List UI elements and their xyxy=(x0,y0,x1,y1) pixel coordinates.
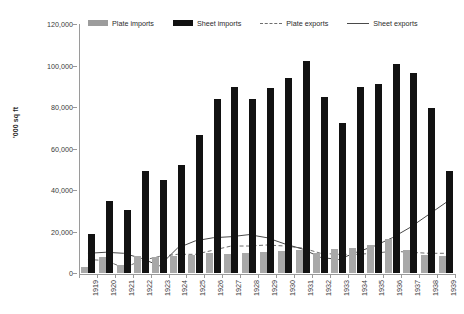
x-tick-label: 1934 xyxy=(360,280,369,296)
x-tick-label: 1932 xyxy=(324,280,333,296)
x-tick-label: 1933 xyxy=(342,280,351,296)
x-tick-mark xyxy=(348,274,349,278)
bar-sheet-imports xyxy=(249,99,256,273)
bar-plate-imports xyxy=(152,257,159,273)
x-tick-mark xyxy=(330,274,331,278)
x-tick-label: 1920 xyxy=(109,280,118,296)
y-tick-mark xyxy=(73,149,77,150)
x-tick-label: 1919 xyxy=(91,280,100,296)
x-tick-label: 1922 xyxy=(145,280,154,296)
bar-plate-imports xyxy=(278,251,285,273)
y-tick-mark xyxy=(73,107,77,108)
x-tick-label: 1930 xyxy=(288,280,297,296)
x-tick-mark xyxy=(204,274,205,278)
x-axis-line xyxy=(79,274,456,275)
y-tick-mark xyxy=(73,190,77,191)
bar-sheet-imports xyxy=(267,88,274,273)
bar-plate-imports xyxy=(81,267,88,273)
x-tick-mark xyxy=(365,274,366,278)
x-tick-label: 1929 xyxy=(270,280,279,296)
y-tick-mark xyxy=(73,66,77,67)
y-tick-label: 100,000 xyxy=(47,61,73,70)
x-tick-label: 1921 xyxy=(127,280,136,296)
y-tick-mark xyxy=(73,273,77,274)
x-tick-mark xyxy=(437,274,438,278)
bar-plate-imports xyxy=(170,256,177,273)
bar-plate-imports xyxy=(134,256,141,273)
bar-plate-imports xyxy=(349,248,356,273)
x-tick-label: 1924 xyxy=(180,280,189,296)
x-tick-mark xyxy=(97,274,98,278)
bar-sheet-imports xyxy=(160,180,167,273)
x-tick-label: 1927 xyxy=(234,280,243,296)
y-tick-label: 40,000 xyxy=(51,186,73,195)
bar-plate-imports xyxy=(331,249,338,273)
x-tick-mark xyxy=(240,274,241,278)
plot-area xyxy=(79,24,455,273)
bar-plate-imports xyxy=(385,239,392,273)
x-tick-mark xyxy=(401,274,402,278)
x-tick-mark xyxy=(115,274,116,278)
bar-sheet-imports xyxy=(339,123,346,273)
bar-sheet-imports xyxy=(124,210,131,273)
bar-sheet-imports xyxy=(106,201,113,273)
x-tick-mark xyxy=(419,274,420,278)
bar-sheet-imports xyxy=(375,84,382,273)
bar-plate-imports xyxy=(242,253,249,273)
bar-sheet-imports xyxy=(231,87,238,273)
bar-sheet-imports xyxy=(88,234,95,273)
y-tick-mark xyxy=(73,232,77,233)
x-tick-label: 1936 xyxy=(395,280,404,296)
bar-plate-imports xyxy=(421,255,428,273)
x-tick-label: 1937 xyxy=(413,280,422,296)
bar-plate-imports xyxy=(117,265,124,273)
x-tick-label: 1928 xyxy=(252,280,261,296)
x-tick-mark xyxy=(133,274,134,278)
bar-sheet-imports xyxy=(142,171,149,273)
x-tick-mark xyxy=(455,274,456,278)
x-tick-label: 1925 xyxy=(198,280,207,296)
x-tick-mark xyxy=(383,274,384,278)
x-tick-mark xyxy=(222,274,223,278)
bar-plate-imports xyxy=(439,256,446,273)
x-tick-label: 1935 xyxy=(377,280,386,296)
bar-sheet-imports xyxy=(285,78,292,273)
bar-sheet-imports xyxy=(321,97,328,273)
x-tick-mark xyxy=(294,274,295,278)
bar-sheet-imports xyxy=(178,165,185,273)
bar-plate-imports xyxy=(367,245,374,273)
bar-sheet-imports xyxy=(357,87,364,273)
bar-plate-imports xyxy=(260,252,267,273)
bar-plate-imports xyxy=(99,257,106,273)
bar-plate-imports xyxy=(403,250,410,273)
x-tick-mark xyxy=(258,274,259,278)
x-tick-mark xyxy=(79,274,80,278)
y-tick-label: 20,000 xyxy=(51,227,73,236)
y-tick-mark xyxy=(73,24,77,25)
y-tick-label: 120,000 xyxy=(47,20,73,29)
y-tick-label: 60,000 xyxy=(51,144,73,153)
x-tick-mark xyxy=(312,274,313,278)
bar-sheet-imports xyxy=(410,73,417,273)
x-tick-label: 1931 xyxy=(306,280,315,296)
y-tick-label: 80,000 xyxy=(51,103,73,112)
x-tick-label: 1938 xyxy=(431,280,440,296)
chart-container: Plate importsSheet importsPlate exportsS… xyxy=(0,0,464,314)
x-tick-label: 1926 xyxy=(216,280,225,296)
x-tick-label: 1923 xyxy=(163,280,172,296)
x-tick-mark xyxy=(151,274,152,278)
bar-sheet-imports xyxy=(446,171,453,273)
x-tick-mark xyxy=(186,274,187,278)
y-axis-tick-labels: 020,00040,00060,00080,000100,000120,000 xyxy=(0,24,79,274)
bar-plate-imports xyxy=(313,253,320,273)
bar-sheet-imports xyxy=(196,135,203,273)
bar-plate-imports xyxy=(206,253,213,273)
bar-plate-imports xyxy=(188,255,195,273)
bar-plate-imports xyxy=(296,250,303,273)
bar-sheet-imports xyxy=(214,99,221,273)
x-tick-mark xyxy=(276,274,277,278)
bar-sheet-imports xyxy=(428,108,435,273)
x-tick-label: 1939 xyxy=(449,280,458,296)
bar-sheet-imports xyxy=(393,64,400,273)
x-tick-mark xyxy=(169,274,170,278)
